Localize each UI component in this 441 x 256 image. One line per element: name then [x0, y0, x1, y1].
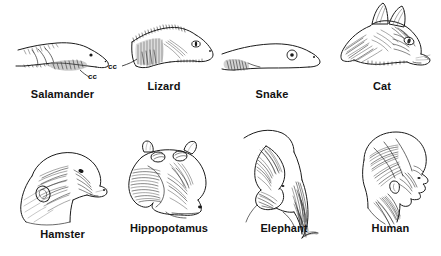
panel-elephant: Elephant [228, 126, 340, 252]
panel-hamster: Hamster [10, 140, 115, 252]
lizard-cc-annotation: cc [108, 62, 117, 71]
lizard-head-illustration [108, 0, 220, 88]
panel-hippopotamus: Hippopotamus [110, 130, 228, 252]
panel-label-elephant: Elephant [228, 222, 340, 234]
panel-label-human: Human [340, 222, 441, 234]
human-head-illustration [340, 126, 441, 230]
panel-lizard: cc Lizard [108, 0, 220, 104]
salamander-cc-annotation: cc [88, 72, 97, 81]
salamander-head-illustration [10, 8, 115, 88]
panel-label-salamander: Salamander [10, 88, 115, 100]
panel-label-cat: Cat [326, 80, 438, 92]
panel-salamander: cc Salamander [10, 8, 115, 104]
panel-human: Human [340, 126, 441, 252]
snake-head-illustration [216, 8, 328, 88]
panel-label-snake: Snake [216, 88, 328, 100]
hippopotamus-head-illustration [110, 130, 228, 230]
panel-snake: Snake [216, 8, 328, 104]
hamster-head-illustration [10, 140, 115, 232]
panel-label-lizard: Lizard [108, 80, 220, 92]
panel-label-hippopotamus: Hippopotamus [110, 222, 228, 234]
panel-cat: Cat [326, 0, 438, 104]
panel-label-hamster: Hamster [10, 228, 115, 240]
comparative-anatomy-figure: cc Salamander [0, 0, 441, 256]
cat-head-illustration [326, 0, 438, 82]
